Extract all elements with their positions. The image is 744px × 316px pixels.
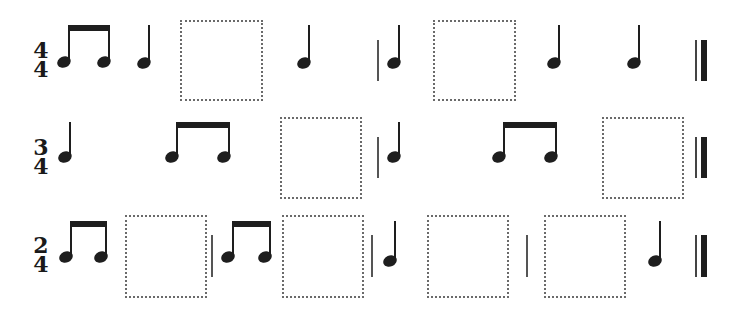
- answer-box[interactable]: [125, 215, 207, 298]
- answer-box[interactable]: [433, 20, 516, 101]
- time-signature-3-4: 3 4: [31, 138, 51, 176]
- time-signature-4-4: 4 4: [31, 41, 51, 79]
- barline: [526, 235, 528, 277]
- eighth-note-pair-icon: [220, 220, 276, 265]
- quarter-note-icon: [545, 24, 565, 69]
- eighth-note-pair-icon: [56, 24, 114, 69]
- final-barline-thick: [701, 137, 707, 178]
- time-signature-2-4: 2 4: [31, 236, 51, 274]
- barline: [371, 235, 373, 277]
- quarter-note-icon: [295, 24, 315, 69]
- answer-box[interactable]: [427, 215, 509, 298]
- barline: [377, 40, 379, 81]
- quarter-note-icon: [135, 24, 155, 69]
- answer-box[interactable]: [282, 215, 364, 298]
- eighth-note-pair-icon: [491, 121, 561, 166]
- time-signature-bottom: 4: [31, 60, 51, 79]
- barline: [211, 235, 213, 277]
- eighth-note-pair-icon: [58, 220, 110, 265]
- eighth-note-pair-icon: [164, 121, 234, 166]
- quarter-note-icon: [385, 24, 405, 69]
- final-barline-thin: [695, 40, 697, 81]
- final-barline-thick: [701, 235, 707, 277]
- quarter-note-icon: [646, 220, 666, 265]
- quarter-note-icon: [625, 24, 645, 69]
- final-barline-thin: [695, 235, 697, 277]
- quarter-note-icon: [57, 121, 77, 166]
- answer-box[interactable]: [544, 215, 626, 298]
- final-barline-thin: [695, 137, 697, 178]
- time-signature-bottom: 4: [31, 255, 51, 274]
- final-barline-thick: [701, 40, 707, 81]
- time-signature-bottom: 4: [31, 157, 51, 176]
- barline: [377, 137, 379, 178]
- quarter-note-icon: [385, 121, 405, 166]
- answer-box[interactable]: [280, 117, 362, 199]
- answer-box[interactable]: [602, 117, 684, 199]
- answer-box[interactable]: [180, 20, 263, 101]
- quarter-note-icon: [381, 220, 401, 265]
